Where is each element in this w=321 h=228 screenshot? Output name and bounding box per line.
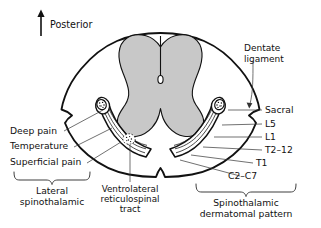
dentate-ligament-line-2: ligament: [244, 54, 284, 65]
lateral-spinothalamic-line-2: spinothalamic: [6, 197, 98, 208]
spinothalamic-dermatomal-label: Spinothalamic dermatomal pattern: [186, 198, 306, 220]
spinal-cord-diagram: Posterior Dentate ligament Deep pain Tem…: [0, 0, 321, 228]
posterior-arrow-icon: [37, 10, 44, 37]
central-canal: [158, 76, 163, 84]
ventrolateral-tract-line-1: Ventrolateral: [93, 184, 167, 194]
dermatome-label-sacral: Sacral: [265, 105, 293, 115]
spinothalamic-dermatomal-line-2: dermatomal pattern: [186, 209, 306, 220]
dermatome-label-l5: L5: [265, 119, 276, 129]
dermatome-label-t2-12: T2–12: [265, 145, 293, 155]
deep-pain-label: Deep pain: [10, 126, 57, 136]
left-reticulospinal-patch: [123, 134, 135, 144]
spinothalamic-dermatomal-brace: [196, 184, 296, 197]
temperature-label: Temperature: [10, 141, 68, 151]
ventrolateral-tract-line-2: reticulospinal: [93, 194, 167, 204]
lateral-spinothalamic-brace: [14, 172, 90, 185]
dermatome-label-t1: T1: [256, 158, 267, 168]
posterior-label: Posterior: [50, 20, 92, 30]
ventrolateral-tract-label: Ventrolateral reticulospinal tract: [93, 184, 167, 215]
dermatome-label-c2-c7: C2–C7: [228, 171, 257, 181]
dentate-ligament-line-1: Dentate: [244, 43, 284, 54]
lateral-spinothalamic-label: Lateral spinothalamic: [6, 186, 98, 208]
dermatome-label-l1: L1: [265, 132, 276, 142]
superficial-pain-label: Superficial pain: [10, 157, 81, 167]
ventrolateral-tract-line-3: tract: [93, 204, 167, 214]
dentate-ligament-label: Dentate ligament: [244, 43, 284, 64]
